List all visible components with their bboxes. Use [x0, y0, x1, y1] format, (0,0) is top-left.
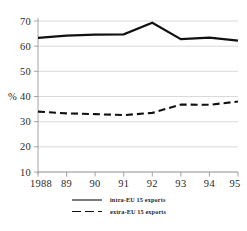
y-tick-label-10: 10: [20, 167, 31, 178]
x-tick-label-89: 89: [61, 178, 72, 189]
y-tick-label-40: % 40: [8, 91, 31, 102]
y-tick-label-20: 20: [20, 141, 31, 152]
y-tick-label-60: 60: [20, 41, 31, 52]
x-tick-label-94: 94: [204, 178, 216, 189]
legend-label-extra-eu-15-exports: extra-EU 15 exports: [110, 208, 167, 215]
line-chart-canvas: 70 60 50 % 40 30 20 10 1988 89 90 91 92 …: [0, 0, 247, 231]
y-tick-label-70: 70: [20, 16, 31, 27]
x-tick-label-92: 92: [147, 178, 158, 189]
x-tick-label-90: 90: [90, 178, 101, 189]
chart-figure: 70 60 50 % 40 30 20 10 1988 89 90 91 92 …: [0, 0, 247, 231]
y-tick-label-50: 50: [20, 66, 31, 77]
legend-label-intra-eu-15-exports: intra-EU 15 exports: [110, 196, 166, 203]
x-tick-label-93: 93: [175, 178, 186, 189]
y-tick-label-30: 30: [20, 116, 31, 127]
x-tick-label-91: 91: [118, 178, 129, 189]
x-tick-label-1988: 1988: [30, 178, 52, 189]
x-tick-label-95: 95: [229, 178, 240, 189]
